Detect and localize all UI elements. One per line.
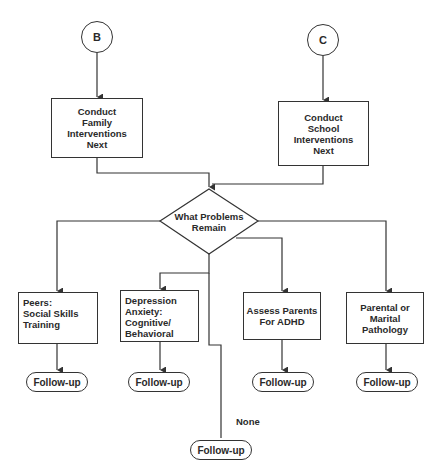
- connector-lines: [0, 0, 444, 474]
- depression-anxiety-box: Depression Anxiety: Cognitive/ Behaviora…: [120, 290, 199, 342]
- none-label: None: [236, 416, 260, 427]
- followup-assess-parents: Follow-up: [252, 372, 314, 392]
- parental-marital-box: Parental or Marital Pathology: [346, 292, 424, 344]
- followup-none: Follow-up: [190, 440, 252, 460]
- connector-c: C: [307, 24, 339, 56]
- assess-parents-adhd-box: Assess Parents For ADHD: [243, 292, 321, 340]
- peers-social-skills-box: Peers: Social Skills Training: [18, 292, 98, 344]
- connector-b: B: [81, 21, 113, 53]
- followup-depression: Follow-up: [128, 372, 190, 392]
- decision-what-problems-remain: What Problems Remain: [169, 211, 249, 233]
- family-interventions-box: Conduct Family Interventions Next: [51, 98, 143, 158]
- followup-peers: Follow-up: [26, 372, 88, 392]
- followup-parental: Follow-up: [356, 372, 418, 392]
- school-interventions-box: Conduct School Interventions Next: [278, 101, 369, 166]
